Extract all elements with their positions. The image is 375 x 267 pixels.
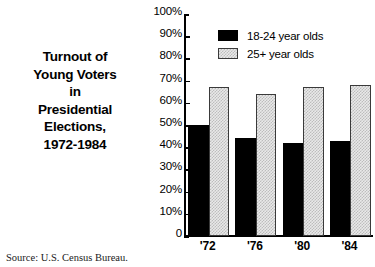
y-tick-label: 20% xyxy=(160,184,182,196)
y-tick-label: 90% xyxy=(160,28,182,40)
title-line-4: Presidential xyxy=(0,101,150,119)
y-tick-label: 0 xyxy=(176,228,182,240)
y-tick-mark xyxy=(184,58,190,60)
y-tick-label: 80% xyxy=(160,50,182,62)
black-swatch-icon xyxy=(218,30,238,41)
y-tick-mark xyxy=(184,36,190,38)
y-tick-label: 50% xyxy=(160,117,182,129)
chart-legend: 18-24 year olds 25+ year olds xyxy=(218,28,323,64)
title-line-2: Young Voters xyxy=(0,66,150,84)
x-tick-label-76: '76 xyxy=(231,240,278,253)
title-line-3: in xyxy=(0,83,150,101)
bar-84-series2 xyxy=(350,85,371,236)
y-tick-mark xyxy=(184,14,189,16)
title-line-5: Elections, xyxy=(0,118,150,136)
y-tick-mark xyxy=(184,236,189,238)
legend-item-0: 18-24 year olds xyxy=(218,28,323,43)
y-tick-mark xyxy=(184,81,190,83)
bar-76-series2 xyxy=(256,94,277,236)
bar-80-series2 xyxy=(303,87,324,236)
y-tick-label: 60% xyxy=(160,95,182,107)
source-note: Source: U.S. Census Bureau. xyxy=(6,252,128,264)
y-tick-label: 70% xyxy=(160,73,182,85)
bar-76-series1 xyxy=(235,138,256,236)
y-tick-label: 10% xyxy=(160,206,182,218)
y-tick-label: 40% xyxy=(160,139,182,151)
page-title: Turnout of Young Voters in Presidential … xyxy=(0,48,150,153)
title-line-1: Turnout of xyxy=(0,48,150,66)
x-tick-label-84: '84 xyxy=(326,240,373,253)
y-tick-label: 100% xyxy=(153,6,182,18)
x-tick-label-72: '72 xyxy=(184,240,231,253)
y-tick-label: 30% xyxy=(160,161,182,173)
bar-84-series1 xyxy=(330,141,351,236)
x-tick-label-80: '80 xyxy=(279,240,326,253)
legend-item-1: 25+ year olds xyxy=(218,46,323,61)
title-line-6: 1972-1984 xyxy=(0,136,150,154)
bar-72-series1 xyxy=(188,125,209,236)
bar-80-series1 xyxy=(283,143,304,236)
bar-72-series2 xyxy=(209,87,230,236)
legend-label-1: 25+ year olds xyxy=(247,48,314,60)
bar-chart: 100%90%80%70%60%50%40%30%20%10%0 '72'76'… xyxy=(134,6,375,256)
legend-label-0: 18-24 year olds xyxy=(247,30,323,42)
y-tick-mark xyxy=(184,103,190,105)
stipple-swatch-icon xyxy=(218,48,238,59)
